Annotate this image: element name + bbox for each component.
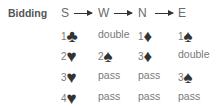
bid-cell: pass: [98, 69, 120, 81]
diamonds-icon: ♦: [144, 48, 153, 65]
bid-text: pass: [178, 90, 200, 102]
bid-cell: pass: [98, 90, 120, 102]
bid-cell: 3♥: [61, 69, 77, 86]
hearts-icon: ♥: [67, 48, 77, 65]
spades-icon: ♠: [184, 69, 193, 86]
bid-cell: 1♦: [138, 28, 152, 45]
arrow-right-icon: [74, 13, 92, 14]
bid-cell: 3♦: [138, 48, 152, 65]
arrow-right-icon: [155, 13, 173, 14]
bid-text: pass: [98, 69, 120, 81]
arrow-right-icon: [114, 13, 132, 14]
bid-cell: 3♠: [178, 69, 193, 86]
bidding-title: Bidding: [8, 7, 47, 19]
bid-cell: 1♣: [61, 28, 78, 45]
bid-text: double: [98, 28, 130, 40]
bid-cell: 1♠: [178, 28, 193, 45]
bid-cell: pass: [138, 69, 160, 81]
diamonds-icon: ♦: [144, 28, 153, 45]
bid-text: pass: [138, 90, 160, 102]
bid-cell: double: [98, 28, 130, 40]
clubs-icon: ♣: [67, 28, 78, 45]
bid-text: pass: [98, 90, 120, 102]
spades-icon: ♠: [184, 28, 193, 45]
bid-cell: double: [178, 48, 210, 60]
bid-cell: pass: [178, 90, 200, 102]
bid-cell: 4♥: [61, 90, 77, 107]
player-east: E: [178, 6, 186, 20]
bid-cell: pass: [138, 90, 160, 102]
bid-text: double: [178, 48, 210, 60]
bid-text: pass: [138, 69, 160, 81]
spades-icon: ♠: [104, 48, 113, 65]
player-north: N: [138, 6, 147, 20]
bid-cell: 2♠: [98, 48, 113, 65]
bid-cell: 2♥: [61, 48, 77, 65]
player-south: S: [61, 6, 69, 20]
player-west: W: [98, 6, 109, 20]
hearts-icon: ♥: [67, 69, 77, 86]
hearts-icon: ♥: [67, 90, 77, 107]
